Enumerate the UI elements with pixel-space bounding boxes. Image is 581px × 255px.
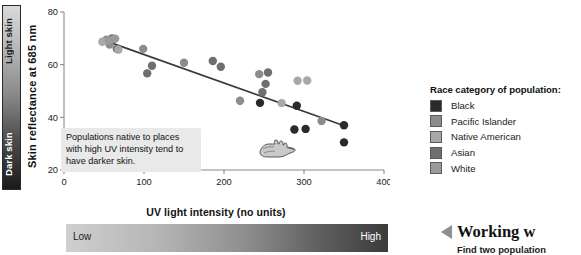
x-tick-label: 300 [296,177,312,187]
skin-bar-light-label: Light skin [3,12,22,70]
legend-item: White [430,160,581,176]
y-tick-label: 20 [48,165,58,175]
data-point [293,102,301,110]
legend-title: Race category of population: [430,84,581,95]
legend-swatch [430,147,442,159]
legend-item: Pacific Islander [430,114,581,130]
data-point [261,80,269,88]
legend-swatch [430,131,442,143]
data-point [301,125,309,133]
x-tick-label: 400 [376,177,390,187]
data-point [264,68,272,76]
skin-bar-dark-label: Dark skin [3,125,22,183]
legend-swatch [430,162,442,174]
data-point [340,121,348,129]
x-tick-label: 0 [61,177,66,187]
x-tick-label: 100 [136,177,152,187]
y-tick-label: 60 [48,60,58,70]
data-point [180,59,188,67]
data-point [236,97,244,105]
y-tick-label: 40 [48,113,58,123]
data-point [340,138,348,146]
data-point [303,76,311,84]
y-tick-label: 80 [48,7,58,17]
uv-bar-high-label: High [360,231,381,242]
uv-bar-low-label: Low [73,231,91,242]
working-title: Working w [457,222,535,242]
legend-label: Black [451,100,474,111]
data-point [114,45,122,53]
data-point [111,34,119,42]
data-point [256,99,264,107]
legend-item: Black [430,98,581,114]
left-triangle-icon [441,225,452,239]
data-point [317,117,325,125]
working-with-data-block: Working w Find two population [441,222,581,255]
data-point [148,62,156,70]
data-point [258,88,266,96]
working-subtitle: Find two population [457,244,581,255]
uv-intensity-gradient-bar: Low High [66,224,388,252]
legend-swatch [430,115,442,127]
x-axis-title: UV light intensity (no units) [42,206,390,218]
y-axis-title: Skin reflectance at 685 nm [24,0,40,192]
annotation-callout: Populations native to places with high U… [61,128,201,172]
pointing-hand-icon [258,136,298,162]
data-point [255,70,263,78]
legend-label: Native American [451,131,521,142]
legend-label: White [451,163,476,174]
data-point [139,45,147,53]
legend-label: Pacific Islander [451,116,516,127]
legend-item: Asian [430,145,581,161]
legend-item: Native American [430,129,581,145]
skin-tone-gradient-bar: Light skin Dark skin [2,5,21,190]
working-heading: Working w [441,222,581,242]
data-point [217,63,225,71]
legend: Race category of population: BlackPacifi… [430,84,581,176]
data-point [209,57,217,65]
legend-label: Asian [451,147,475,158]
x-tick-label: 200 [216,177,232,187]
data-point [277,99,285,107]
data-point [290,125,298,133]
data-point [293,77,301,85]
legend-swatch [430,100,442,112]
data-point [143,69,151,77]
legend-rows: BlackPacific IslanderNative AmericanAsia… [430,98,581,176]
